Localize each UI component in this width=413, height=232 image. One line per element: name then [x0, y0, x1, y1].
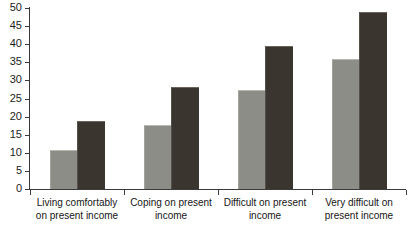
y-axis-tick-label: 30	[0, 74, 22, 85]
y-axis-tick-label: 45	[0, 20, 22, 31]
y-axis-tick-label: 15	[0, 129, 22, 140]
bar-series-2-3	[359, 12, 387, 189]
x-axis-tick	[30, 190, 31, 195]
x-axis-tick	[124, 190, 125, 195]
y-axis-tick-label: 50	[0, 2, 22, 13]
bar-series-1-1	[144, 125, 172, 189]
bar-chart: 05101520253035404550 Living comfortablyo…	[0, 0, 413, 232]
bar-series-2-2	[265, 46, 293, 189]
category-label: Very difficult onpresent income	[308, 197, 410, 222]
y-axis-tick-label: 10	[0, 147, 22, 158]
category-label-line: Very difficult on	[308, 197, 410, 210]
category-label: Living comfortablyon present income	[26, 197, 128, 222]
y-axis-tick-label: 5	[0, 165, 22, 176]
bar-series-1-2	[238, 90, 266, 189]
category-label-line: income	[120, 210, 222, 223]
plot-area	[30, 8, 406, 189]
bar-series-1-3	[332, 59, 360, 189]
y-axis-tick-label: 40	[0, 38, 22, 49]
x-axis-tick	[406, 190, 407, 195]
category-label: Difficult on presentincome	[214, 197, 316, 222]
y-axis-tick-label: 35	[0, 56, 22, 67]
x-axis-tick	[312, 190, 313, 195]
y-axis-tick-label: 25	[0, 93, 22, 104]
x-axis-tick	[218, 190, 219, 195]
category-label-line: Coping on present	[120, 197, 222, 210]
category-label-line: Difficult on present	[214, 197, 316, 210]
bar-series-1-0	[50, 150, 78, 189]
bar-series-2-1	[171, 87, 199, 189]
y-axis-tick-label: 0	[0, 183, 22, 194]
category-labels: Living comfortablyon present incomeCopin…	[30, 197, 406, 232]
category-label-line: present income	[308, 210, 410, 223]
y-axis-tick-label: 20	[0, 111, 22, 122]
category-label-line: income	[214, 210, 316, 223]
category-label: Coping on presentincome	[120, 197, 222, 222]
category-label-line: on present income	[26, 210, 128, 223]
category-label-line: Living comfortably	[26, 197, 128, 210]
bar-series-2-0	[77, 121, 105, 189]
